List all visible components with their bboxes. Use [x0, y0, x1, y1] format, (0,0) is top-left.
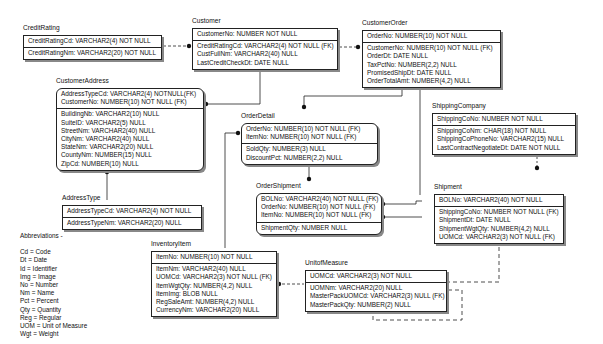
- attribute: StateNm: VARCHAR2(20) NULL: [61, 143, 199, 151]
- entity-name: InventoryItem: [151, 240, 191, 247]
- entity-order-detail[interactable]: OrderDetail OrderNo: NUMBER(10) NOT NULL…: [241, 123, 378, 165]
- entity-unit-of-measure[interactable]: UnitofMeasure UOMCd: VARCHAR2(3) NOT NUL…: [305, 270, 447, 312]
- entity-name: ShippingCompany: [432, 102, 486, 109]
- attribute: StreetNm: VARCHAR2(40) NULL: [61, 127, 199, 135]
- attribute-section: ItemNm: VARCHAR2(40) NULL UOMCd: VARCHAR…: [152, 263, 276, 316]
- abbreviation-item: Dt = Date: [20, 256, 87, 264]
- attribute-section: ShippingCoNo: NUMBER NOT NULL (FK) Shipm…: [435, 206, 563, 243]
- key-attribute: AddressTypeCd: VARCHAR2(4) NOT NULL: [67, 207, 197, 215]
- key-attribute: CustomerNo: NUMBER(10) NOT NULL (FK): [61, 98, 199, 106]
- attribute: TaxPctNo: NUMBER(2,2) NULL: [367, 61, 496, 69]
- attribute: DiscountPct: NUMBER(2,2) NULL: [246, 154, 373, 162]
- abbreviation-item: Qty = Quantity: [20, 306, 87, 314]
- attribute: CreditRatingNm: VARCHAR2(20) NOT NULL: [28, 49, 157, 57]
- entity-name: CreditRating: [23, 24, 60, 31]
- entity-name: Shipment: [434, 183, 462, 190]
- primary-key-section: BOLNo: VARCHAR2(40) NOT NULL (FK) OrderN…: [257, 194, 381, 222]
- attribute: ShipmentDt: DATE NULL: [439, 216, 559, 224]
- primary-key-section: CreditRatingCd: VARCHAR2(4) NOT NULL: [24, 36, 161, 47]
- attribute: LastCreditCheckDt: DATE NULL: [197, 59, 333, 67]
- key-attribute: ItemNo: NUMBER(10) NOT NULL (FK): [246, 133, 373, 141]
- entity-name: AddressType: [62, 194, 100, 201]
- primary-key-section: CustomerNo: NUMBER NOT NULL: [193, 29, 337, 40]
- key-attribute: CustomerNo: NUMBER NOT NULL: [197, 30, 333, 38]
- abbreviations-legend: Abbreviations - Cd = Code Dt = Date Id =…: [20, 232, 87, 338]
- entity-name: CustomerOrder: [362, 19, 407, 26]
- attribute: OrderDt: DATE NULL: [367, 52, 496, 60]
- attribute: UOMNm: VARCHAR2(20) NULL: [310, 284, 442, 292]
- attribute-section: ShipmentQty: NUMBER NULL: [257, 222, 381, 234]
- abbreviation-item: UOM = Unit of Measure: [20, 322, 87, 330]
- abbreviation-item: Img = Image: [20, 273, 87, 281]
- key-attribute: BOLNo: VARCHAR2(40) NOT NULL (FK): [261, 195, 377, 203]
- abbreviation-item: Pct = Percent: [20, 297, 87, 305]
- attribute: UOMCd: VARCHAR2(3) NOT NULL (FK): [156, 273, 272, 281]
- entity-customer-address[interactable]: CustomerAddress AddressTypeCd: VARCHAR2(…: [56, 88, 204, 171]
- entity-shipment[interactable]: Shipment BOLNo: VARCHAR2(40) NOT NULL Sh…: [434, 194, 564, 244]
- attribute-section: ShippingCoNm: CHAR(18) NOT NULL Shipping…: [433, 125, 575, 154]
- entity-shipping-company[interactable]: ShippingCompany ShippingCoNo: NUMBER NOT…: [432, 113, 576, 155]
- attribute-section: CreditRatingNm: VARCHAR2(20) NOT NULL: [24, 47, 161, 59]
- entity-customer-order[interactable]: CustomerOrder OrderNo: NUMBER(10) NOT NU…: [362, 30, 501, 88]
- attribute-section: AddressTypeNm: VARCHAR2(20) NULL: [63, 217, 201, 229]
- entity-customer[interactable]: Customer CustomerNo: NUMBER NOT NULL Cre…: [192, 28, 338, 70]
- attribute: CityNm: VARCHAR2(40) NULL: [61, 135, 199, 143]
- attribute: MasterPackQty: NUMBER(2) NULL: [310, 301, 442, 309]
- key-attribute: AddressTypeCd: VARCHAR2(4) NOTNULL(FK): [61, 90, 199, 98]
- abbreviations-title: Abbreviations -: [20, 232, 87, 240]
- key-attribute: BOLNo: VARCHAR2(40) NOT NULL: [439, 196, 559, 204]
- attribute: ShippingCoPhoneNo: VARCHAR2(15) NULL: [437, 135, 571, 143]
- attribute: CustFullNm: VARCHAR2(40) NULL: [197, 50, 333, 58]
- primary-key-section: OrderNo: NUMBER(10) NOT NULL: [363, 31, 500, 42]
- attribute: AddressTypeNm: VARCHAR2(20) NULL: [67, 219, 197, 227]
- primary-key-section: OrderNo: NUMBER(10) NOT NULL (FK) ItemNo…: [242, 124, 377, 143]
- attribute: ShipmentWgtQty: NUMBER(4,2) NULL: [439, 225, 559, 233]
- attribute: CountyNm: NUMBER(15) NULL: [61, 151, 199, 159]
- abbreviation-item: Reg = Regular: [20, 314, 87, 322]
- attribute: SuiteID: VARCHAR2(5) NULL: [61, 119, 199, 127]
- key-attribute: CreditRatingCd: VARCHAR2(4) NOT NULL: [28, 37, 157, 45]
- attribute: LastContractNegotiateDt: DATE NOT NULL: [437, 144, 571, 152]
- er-diagram-canvas: CreditRating CreditRatingCd: VARCHAR2(4)…: [0, 0, 603, 344]
- primary-key-section: BOLNo: VARCHAR2(40) NOT NULL: [435, 195, 563, 206]
- attribute: PromisedShipDt: DATE NULL: [367, 69, 496, 77]
- attribute: UOMCd: VARCHAR2(3) NOT NULL (FK): [439, 233, 559, 241]
- key-attribute: OrderNo: NUMBER(10) NOT NULL (FK): [261, 203, 377, 211]
- entity-inventory-item[interactable]: InventoryItem ItemNo: NUMBER(10) NOT NUL…: [151, 251, 277, 317]
- attribute: ShippingCoNo: NUMBER NOT NULL (FK): [439, 208, 559, 216]
- attribute-section: SoldQty: NUMBER(3) NULL DiscountPct: NUM…: [242, 143, 377, 163]
- attribute: CurrencyNm: VARCHAR2(20) NULL: [156, 306, 272, 314]
- entity-credit-rating[interactable]: CreditRating CreditRatingCd: VARCHAR2(4)…: [23, 35, 162, 60]
- primary-key-section: AddressTypeCd: VARCHAR2(4) NOTNULL(FK) C…: [57, 89, 203, 108]
- entity-name: UnitofMeasure: [305, 259, 348, 266]
- primary-key-section: ItemNo: NUMBER(10) NOT NULL: [152, 252, 276, 263]
- key-attribute: ShippingCoNo: NUMBER NOT NULL: [437, 115, 571, 123]
- attribute-section: BuildingNb: VARCHAR2(10) NULL SuiteID: V…: [57, 108, 203, 169]
- primary-key-section: ShippingCoNo: NUMBER NOT NULL: [433, 114, 575, 125]
- key-attribute: OrderNo: NUMBER(10) NOT NULL (FK): [246, 125, 373, 133]
- attribute: ItemImg: BLOB NULL: [156, 290, 272, 298]
- attribute: RegSaleAmt: NUMBER(4,2) NULL: [156, 298, 272, 306]
- abbreviation-item: Nm = Name: [20, 289, 87, 297]
- key-attribute: ItemNo: NUMBER(10) NOT NULL: [156, 253, 272, 261]
- primary-key-section: UOMCd: VARCHAR2(3) NOT NULL: [306, 271, 446, 282]
- entity-address-type[interactable]: AddressType AddressTypeCd: VARCHAR2(4) N…: [62, 205, 202, 230]
- attribute: MasterPackUOMCd: VARCHAR2(3) NULL (FK): [310, 292, 442, 300]
- attribute: ZipCd: NUMBER(10) NULL: [61, 160, 199, 168]
- attribute: ShipmentQty: NUMBER NULL: [261, 224, 377, 232]
- attribute: CustomerNo: NUMBER(10) NOT NULL (FK): [367, 44, 496, 52]
- entity-name: OrderDetail: [241, 112, 275, 119]
- attribute-section: CreditRatingCd: VARCHAR2(4) NOT NULL (FK…: [193, 40, 337, 69]
- attribute: CreditRatingCd: VARCHAR2(4) NOT NULL (FK…: [197, 42, 333, 50]
- entity-name: Customer: [192, 17, 221, 24]
- abbreviation-item: Cd = Code: [20, 248, 87, 256]
- key-attribute: ItemNo: NUMBER(10) NOT NULL (FK): [261, 211, 377, 219]
- attribute: OrderTotalAmt: NUMBER(4,2) NULL: [367, 77, 496, 85]
- attribute: BuildingNb: VARCHAR2(10) NULL: [61, 110, 199, 118]
- entity-name: OrderShipment: [256, 182, 301, 189]
- key-attribute: UOMCd: VARCHAR2(3) NOT NULL: [310, 272, 442, 280]
- entity-name: CustomerAddress: [56, 77, 109, 84]
- attribute-section: UOMNm: VARCHAR2(20) NULL MasterPackUOMCd…: [306, 282, 446, 311]
- entity-order-shipment[interactable]: OrderShipment BOLNo: VARCHAR2(40) NOT NU…: [256, 193, 382, 235]
- attribute: ItemNm: VARCHAR2(40) NULL: [156, 265, 272, 273]
